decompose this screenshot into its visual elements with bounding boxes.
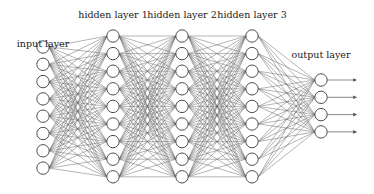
neuron-node (176, 171, 188, 183)
neuron-node (246, 47, 258, 59)
neuron-node (246, 171, 258, 183)
neuron-node (176, 153, 188, 165)
neuron-node (246, 65, 258, 77)
neuron-node (315, 108, 327, 120)
neuron-node (107, 153, 119, 165)
hidden-1-layer-nodes (107, 30, 119, 183)
neuron-node (37, 162, 49, 174)
neuron-node (176, 135, 188, 147)
neuron-node (246, 30, 258, 42)
neuron-node (315, 126, 327, 138)
arrow-icon (353, 113, 357, 117)
neuron-node (176, 30, 188, 42)
neuron-node (246, 135, 258, 147)
input-layer-nodes (37, 41, 49, 175)
output-layer-nodes (315, 74, 327, 138)
input-layer-label: input layer (17, 38, 69, 49)
hidden-2-layer-nodes (176, 30, 188, 183)
hidden-3-layer-nodes (246, 30, 258, 183)
neuron-node (107, 135, 119, 147)
neuron-node (107, 118, 119, 130)
neuron-node (246, 83, 258, 95)
output-arrows (327, 78, 357, 134)
neuron-node (107, 100, 119, 112)
network-graph (0, 0, 374, 194)
neuron-node (37, 58, 49, 70)
neuron-node (37, 93, 49, 105)
neuron-node (37, 110, 49, 122)
hidden-layer-1-label: hidden layer 1 (78, 9, 147, 20)
neuron-node (37, 75, 49, 87)
neuron-node (176, 118, 188, 130)
neuron-node (246, 100, 258, 112)
neuron-node (246, 118, 258, 130)
neuron-node (107, 30, 119, 42)
arrow-icon (353, 130, 357, 134)
neuron-node (107, 171, 119, 183)
neuron-node (176, 65, 188, 77)
neuron-node (107, 47, 119, 59)
neuron-node (37, 127, 49, 139)
neuron-node (176, 47, 188, 59)
hidden-layer-3-label: hidden layer 3 (217, 9, 286, 20)
neuron-node (107, 83, 119, 95)
arrow-icon (353, 78, 357, 82)
neural-network-diagram: input layer hidden layer 1 hidden layer … (0, 0, 374, 194)
neuron-node (315, 91, 327, 103)
neuron-node (246, 153, 258, 165)
neuron-node (107, 65, 119, 77)
output-layer-label: output layer (292, 49, 351, 60)
hidden-layer-2-label: hidden layer 2 (147, 9, 216, 20)
neuron-node (176, 83, 188, 95)
neuron-node (176, 100, 188, 112)
neuron-node (315, 74, 327, 86)
arrow-icon (353, 96, 357, 100)
neuron-node (37, 145, 49, 157)
